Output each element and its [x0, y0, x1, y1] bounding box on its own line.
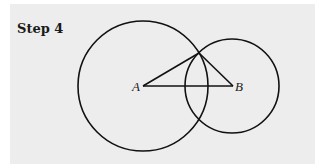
construction-diagram: A B [0, 0, 315, 166]
point-a-label: A [131, 79, 140, 94]
segment-b-apex [199, 53, 233, 86]
point-b-label: B [235, 79, 243, 94]
segment-a-apex [143, 53, 199, 86]
